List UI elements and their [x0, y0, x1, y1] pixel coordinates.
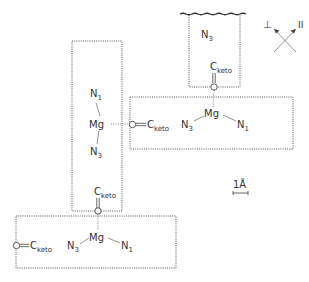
left-oxygen	[129, 121, 135, 127]
top-unit-box	[189, 15, 240, 87]
left-n1-label: N1	[90, 88, 102, 102]
right-unit-box	[130, 97, 293, 149]
left-bottom-cketo-label: Cketo	[94, 186, 116, 200]
bottom-oxygen	[13, 242, 19, 248]
left-unit: N1 Mg N3 Cketo Cketo	[72, 41, 169, 230]
bottom-n3-label: N3	[67, 240, 79, 254]
bottom-unit: Mg N3 N1 Cketo	[13, 216, 176, 268]
top-oxygen	[211, 84, 217, 90]
diagram-canvas: N3 Cketo Mg N3 N1 N1 Mg N3 Cketo Cketo	[0, 0, 309, 282]
right-unit: Mg N3 N1	[130, 97, 293, 149]
top-n3-label: N3	[201, 29, 213, 43]
bottom-cketo-label: Cketo	[30, 240, 52, 254]
top-cketo-label: Cketo	[210, 61, 232, 75]
left-n3-label: N3	[90, 146, 102, 160]
top-unit: N3 Cketo	[180, 13, 246, 108]
left-bottom-oxygen	[95, 208, 101, 214]
arrow-perpendicular-icon	[274, 29, 280, 34]
top-coordination-bond	[213, 90, 214, 108]
wavy-edge	[180, 13, 246, 15]
scale-bar: 1Å	[233, 178, 248, 195]
arrow-parallel-icon	[291, 29, 297, 34]
scale-bar-label: 1Å	[233, 178, 246, 190]
bottom-mg-label: Mg	[89, 232, 104, 243]
orientation-indicator: ⊥ II	[263, 19, 303, 52]
left-mg-label: Mg	[89, 119, 104, 130]
parallel-label: II	[298, 20, 303, 30]
perpendicular-label: ⊥	[263, 19, 272, 30]
right-mg-label: Mg	[204, 108, 219, 119]
bottom-n1-label: N1	[121, 240, 133, 254]
right-n1-label: N1	[237, 119, 249, 133]
right-n3-label: N3	[181, 119, 193, 133]
left-cketo-label: Cketo	[147, 119, 169, 133]
